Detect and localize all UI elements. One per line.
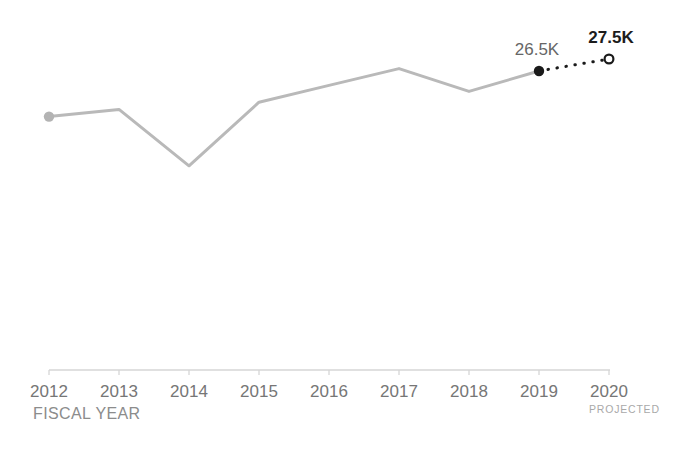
actual-series-line <box>49 69 539 166</box>
x-axis-tick-label-2014: 2014 <box>170 382 208 401</box>
x-axis-tick-label-2018: 2018 <box>450 382 488 401</box>
actual-end-point-marker <box>534 66 544 76</box>
x-axis-tick-label-2019: 2019 <box>520 382 558 401</box>
x-axis-tick-label-2015: 2015 <box>240 382 278 401</box>
x-axis-tick-label-2016: 2016 <box>310 382 348 401</box>
x-axis-tick-label-2020: 2020 <box>590 382 628 401</box>
x-axis-tick-label-2013: 2013 <box>100 382 138 401</box>
fiscal-year-line-chart-canvas: FISCAL YEAR PROJECTED 201220132014201520… <box>0 0 693 451</box>
fiscal-year-chart: FISCAL YEAR PROJECTED 201220132014201520… <box>0 0 693 451</box>
x-axis-title: FISCAL YEAR <box>33 405 141 422</box>
x-axis-tick-label-2012: 2012 <box>30 382 68 401</box>
projected-caption: PROJECTED <box>589 403 660 415</box>
projected-series-line <box>539 59 609 71</box>
annotation-26.5K: 26.5K <box>515 40 560 59</box>
x-axis-tick-label-2017: 2017 <box>380 382 418 401</box>
annotation-27.5K: 27.5K <box>588 28 634 47</box>
start-point-marker <box>44 111 54 121</box>
projected-point-marker <box>605 55 614 64</box>
